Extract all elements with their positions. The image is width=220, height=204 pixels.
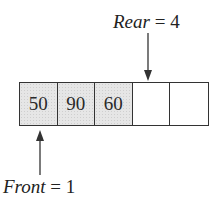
front-equals-sign: =: [46, 176, 66, 197]
rear-arrow-icon: [144, 33, 152, 81]
cell-value: 50: [29, 93, 48, 115]
cell-value: 60: [104, 93, 123, 115]
queue-array: 50 90 60: [19, 82, 209, 126]
cell-value: 90: [66, 93, 85, 115]
front-arrow-icon: [36, 130, 44, 175]
front-value: 1: [66, 176, 76, 197]
front-pointer-label: Front = 1: [3, 177, 75, 196]
queue-cell-2: 90: [58, 83, 96, 125]
queue-cell-4: [133, 83, 171, 125]
queue-cell-1: 50: [20, 83, 58, 125]
queue-cell-5: [170, 83, 208, 125]
front-variable-name: Front: [3, 176, 46, 197]
queue-cell-3: 60: [95, 83, 133, 125]
queue-diagram: Rear = 4 50 90 60 Front = 1: [0, 0, 220, 204]
